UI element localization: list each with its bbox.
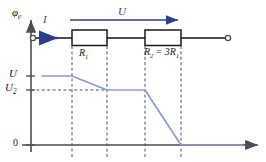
- current-label: I: [43, 14, 47, 25]
- y-tick-label-U: U: [9, 68, 17, 79]
- resistor-R2-label: R2= 3R1: [144, 47, 179, 60]
- circuit-potential-figure: [0, 0, 266, 162]
- y-tick-label-zero: 0: [13, 138, 18, 148]
- resistor-R1-symbol: [72, 30, 107, 46]
- y-axis-label: φe: [12, 7, 21, 21]
- voltage-label: U: [118, 6, 126, 17]
- resistor-R1-label: R1: [79, 48, 88, 61]
- axis-group: [22, 20, 258, 152]
- right-terminal-icon: [225, 35, 230, 40]
- circuit-group: [30, 20, 230, 46]
- y-tick-label-U2: U2: [5, 82, 17, 96]
- left-terminal-icon: [30, 35, 35, 40]
- guide-lines: [31, 46, 181, 158]
- resistor-R2-symbol: [145, 30, 181, 46]
